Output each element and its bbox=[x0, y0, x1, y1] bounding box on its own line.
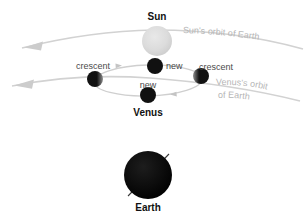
sun-label: Sun bbox=[148, 11, 167, 22]
earth-label: Earth bbox=[135, 202, 161, 213]
epicycle-arrow-lower-icon bbox=[170, 92, 177, 97]
venus-crescent-left-body bbox=[87, 71, 103, 87]
sun-body bbox=[142, 26, 172, 56]
new-upper-label: new bbox=[166, 61, 183, 71]
crescent-left-label: crescent bbox=[76, 61, 111, 71]
diagram-canvas: Sun new crescent crescent new Venus Eart… bbox=[0, 0, 305, 215]
sun-disc bbox=[142, 26, 172, 56]
astronomy-diagram: Sun new crescent crescent new Venus Eart… bbox=[0, 0, 305, 215]
venus-new-upper-disc bbox=[147, 58, 163, 74]
venus-label: Venus bbox=[133, 107, 163, 118]
new-lower-label: new bbox=[140, 80, 157, 90]
venus-new-upper-body bbox=[147, 58, 163, 74]
venus-crescent-left-disc bbox=[87, 71, 103, 87]
venus-orbit-label-line2: of Earth bbox=[218, 90, 251, 102]
earth-body bbox=[124, 151, 172, 199]
earth-disc bbox=[124, 151, 172, 199]
sun-orbit-label: Sun's orbit of Earth bbox=[183, 25, 260, 42]
crescent-right-label: crescent bbox=[199, 62, 234, 72]
venus-orbit-arrow-icon bbox=[14, 80, 34, 89]
